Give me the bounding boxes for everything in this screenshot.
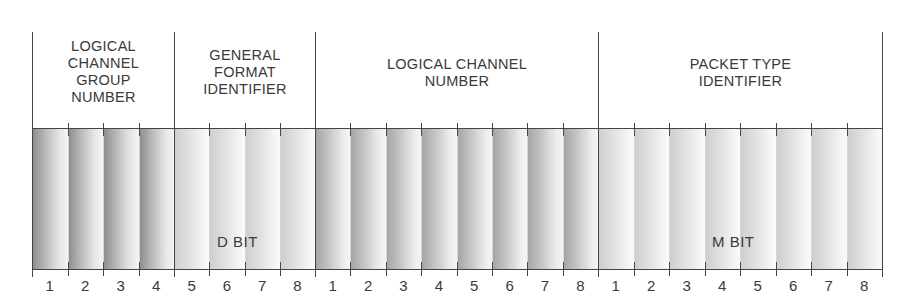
bit-number: 6 — [209, 277, 244, 294]
bit-separator — [847, 129, 848, 269]
bit-separator — [280, 129, 281, 269]
bit-separator — [421, 129, 422, 269]
bit-cell — [351, 129, 385, 269]
bit-separator — [103, 129, 104, 269]
field-label-packet-type-identifier: PACKET TYPE IDENTIFIER — [599, 56, 882, 90]
packet-header-diagram: LOGICAL CHANNEL GROUP NUMBER GENERAL FOR… — [0, 0, 899, 307]
bit-number: 4 — [705, 277, 740, 294]
bit-separator — [669, 129, 670, 269]
bit-cell — [635, 129, 670, 269]
field-label-logical-channel-number: LOGICAL CHANNEL NUMBER — [316, 56, 598, 90]
bit-cell — [69, 129, 104, 269]
bit-separator — [492, 129, 493, 269]
bit-number: 2 — [634, 277, 669, 294]
bit-separator — [563, 129, 564, 269]
bit-separator — [527, 129, 528, 269]
bit-cell — [387, 129, 421, 269]
bar-top-line — [32, 128, 883, 129]
bit-number: 2 — [351, 277, 386, 294]
bit-cell — [670, 129, 705, 269]
bit-separator — [634, 129, 635, 269]
bit-cell — [33, 129, 68, 269]
bit-cell — [281, 129, 315, 269]
bar-bottom-line — [32, 269, 883, 270]
bit-number: 8 — [563, 277, 598, 294]
d-bit-label: D BIT — [217, 233, 258, 250]
bit-number: 8 — [280, 277, 315, 294]
bit-number: 1 — [598, 277, 633, 294]
bit-cell — [175, 129, 209, 269]
bit-separator — [139, 129, 140, 269]
field-label-logical-channel-group-number: LOGICAL CHANNEL GROUP NUMBER — [33, 38, 174, 106]
bit-separator — [350, 129, 351, 269]
bit-number: 2 — [68, 277, 103, 294]
bit-number: 5 — [457, 277, 492, 294]
bit-cell — [599, 129, 634, 269]
bit-separator — [386, 129, 387, 269]
bit-number: 7 — [527, 277, 562, 294]
bit-cell — [140, 129, 175, 269]
bit-cell — [777, 129, 812, 269]
bit-cell — [528, 129, 562, 269]
field-divider — [315, 32, 316, 277]
bit-separator — [776, 129, 777, 269]
field-divider — [32, 32, 33, 277]
bit-separator — [68, 129, 69, 269]
bit-number: 6 — [492, 277, 527, 294]
bit-separator — [705, 129, 706, 269]
bit-number: 7 — [811, 277, 846, 294]
field-divider — [882, 32, 883, 277]
bit-number: 1 — [315, 277, 350, 294]
field-divider — [598, 32, 599, 277]
bit-cell — [316, 129, 350, 269]
bit-cell — [848, 129, 883, 269]
bit-cell — [458, 129, 492, 269]
bit-cell — [564, 129, 598, 269]
bit-separator — [209, 129, 210, 269]
bit-cell — [104, 129, 139, 269]
bit-cell — [493, 129, 527, 269]
bit-number: 4 — [421, 277, 456, 294]
m-bit-label: M BIT — [712, 233, 755, 250]
bit-number: 4 — [139, 277, 174, 294]
bit-number: 5 — [740, 277, 775, 294]
bit-number: 3 — [103, 277, 138, 294]
bit-number: 3 — [386, 277, 421, 294]
field-label-general-format-identifier: GENERAL FORMAT IDENTIFIER — [175, 47, 315, 98]
bit-cell — [422, 129, 456, 269]
bit-separator — [811, 129, 812, 269]
bit-number: 1 — [32, 277, 67, 294]
bit-separator — [457, 129, 458, 269]
bit-number: 8 — [847, 277, 882, 294]
bit-number: 3 — [669, 277, 704, 294]
field-divider — [174, 32, 175, 277]
bit-cell — [812, 129, 847, 269]
bit-number: 6 — [776, 277, 811, 294]
bit-number: 5 — [174, 277, 209, 294]
bit-number: 7 — [245, 277, 280, 294]
